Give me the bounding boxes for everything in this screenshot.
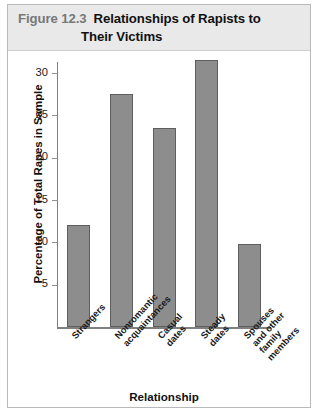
figure-title-line1: Relationships of Rapists to — [94, 11, 261, 26]
y-tick-label: 25 — [18, 108, 48, 120]
figure-number: Figure 12.3 — [18, 11, 87, 26]
y-axis-label: Percentage of Total Rapes in Sample — [32, 59, 44, 309]
y-tick-label: 5 — [18, 277, 48, 289]
y-tick-label: 15 — [18, 193, 48, 205]
bar — [67, 225, 90, 327]
figure-title-line2: Their Victims — [81, 28, 308, 45]
figure-caption: Figure 12.3Relationships of Rapists to T… — [18, 10, 308, 45]
figure-card: Figure 12.3Relationships of Rapists to T… — [0, 0, 318, 416]
x-axis-label: Relationship — [57, 390, 271, 403]
plot-area: Percentage of Total Rapes in Sample 5101… — [8, 52, 310, 408]
y-tick-label: 10 — [18, 235, 48, 247]
chart-axes: 51015202530 StrangersNonromantic acquain… — [57, 52, 271, 338]
y-tick-label: 30 — [18, 66, 48, 78]
y-tick-label: 20 — [18, 150, 48, 162]
